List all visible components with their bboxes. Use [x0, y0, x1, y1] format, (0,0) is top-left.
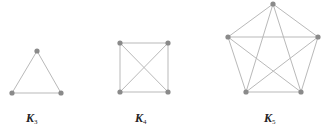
vertex: [298, 89, 303, 94]
label-k5: K5: [264, 112, 276, 126]
label-k3: K3: [26, 112, 38, 126]
edge: [12, 51, 37, 93]
graph-k5: [225, 1, 320, 94]
vertex: [9, 90, 14, 95]
graph-k4: [117, 40, 170, 94]
label-k4: K4: [135, 112, 147, 126]
label-k3-subscript: 3: [34, 118, 38, 126]
edge: [246, 4, 273, 92]
edge: [301, 37, 318, 92]
label-k4-subscript: 4: [143, 118, 147, 126]
edge: [228, 37, 246, 92]
edge: [228, 37, 301, 92]
vertex: [117, 89, 122, 94]
edge: [228, 4, 273, 37]
edge: [273, 4, 318, 37]
label-k5-name: K: [264, 111, 272, 125]
label-k3-name: K: [26, 111, 34, 125]
label-k4-name: K: [135, 111, 143, 125]
complete-graphs-diagram: [0, 0, 326, 131]
vertex: [315, 34, 320, 39]
vertex: [165, 40, 170, 45]
vertex: [34, 48, 39, 53]
vertex: [117, 40, 122, 45]
graph-k3: [9, 48, 63, 95]
edge: [246, 37, 318, 92]
vertex: [225, 34, 230, 39]
vertex: [243, 89, 248, 94]
vertex: [270, 1, 275, 6]
edge: [273, 4, 301, 92]
edge: [37, 51, 61, 93]
vertex: [58, 90, 63, 95]
label-k5-subscript: 5: [272, 118, 276, 126]
vertex: [165, 89, 170, 94]
